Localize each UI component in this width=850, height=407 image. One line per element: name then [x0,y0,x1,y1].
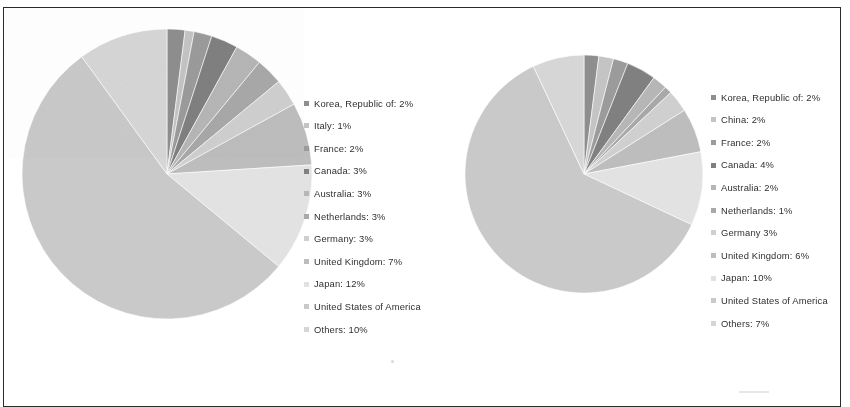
legend-item[interactable]: United States of America [711,289,828,312]
legend-swatch-icon [304,236,309,241]
legend-item-label: Others: 10% [314,325,368,334]
scan-speck [391,360,394,363]
legend-swatch-icon [711,117,716,122]
legend-swatch-icon [711,185,716,190]
legend-swatch-icon [711,163,716,168]
pie-right-svg [464,54,704,294]
legend-item[interactable]: Australia: 3% [304,182,421,205]
legend-swatch-icon [304,327,309,332]
legend-item-label: Australia: 2% [721,183,778,192]
legend-swatch-icon [711,276,716,281]
legend-item[interactable]: Germany 3% [711,222,828,245]
legend-swatch-icon [711,208,716,213]
legend-item[interactable]: Netherlands: 3% [304,205,421,228]
legend-item-label: Canada: 3% [314,166,367,175]
legend-item[interactable]: France: 2% [711,131,828,154]
legend-swatch-icon [711,140,716,145]
legend-item-label: Japan: 10% [721,273,772,282]
pie-left-svg [21,28,313,320]
pie-right-graphic [464,54,704,294]
legend-swatch-icon [304,169,309,174]
legend-swatch-icon [711,253,716,258]
pie-chart-right: Korea, Republic of: 2% China: 2% France:… [424,8,841,406]
legend-item[interactable]: Others: 10% [304,318,421,341]
legend-item-label: United Kingdom: 7% [314,257,402,266]
legend-item[interactable]: Australia: 2% [711,176,828,199]
legend-swatch-icon [304,282,309,287]
legend-item[interactable]: France: 2% [304,137,421,160]
legend-swatch-icon [304,304,309,309]
legend-item-label: China: 2% [721,115,766,124]
legend-item-label: Korea, Republic of: 2% [721,93,820,102]
legend-swatch-icon [711,95,716,100]
legend-item[interactable]: Korea, Republic of: 2% [304,92,421,115]
legend-swatch-icon [711,298,716,303]
legend-item-label: Netherlands: 3% [314,212,386,221]
legend-item[interactable]: China: 2% [711,109,828,132]
legend-item-label: Australia: 3% [314,189,371,198]
legend-item-label: France: 2% [721,138,770,147]
legend-item-label: Italy: 1% [314,121,351,130]
legend-item-label: United States of America [314,302,421,311]
legend-item-label: Korea, Republic of: 2% [314,99,413,108]
legend-item[interactable]: Japan: 12% [304,273,421,296]
legend-item[interactable]: Canada: 4% [711,154,828,177]
pie-chart-left: Korea, Republic of: 2% Italy: 1% France:… [4,8,424,406]
figure-frame: Korea, Republic of: 2% Italy: 1% France:… [3,7,841,407]
legend-item-label: Germany: 3% [314,234,373,243]
legend-item-label: France: 2% [314,144,363,153]
legend-swatch-icon [304,123,309,128]
legend-item-label: Germany 3% [721,228,777,237]
legend-item[interactable]: Canada: 3% [304,160,421,183]
legend-item[interactable]: Italy: 1% [304,115,421,138]
legend-swatch-icon [304,259,309,264]
legend-left: Korea, Republic of: 2% Italy: 1% France:… [304,92,421,341]
legend-item-label: Japan: 12% [314,279,365,288]
legend-swatch-icon [304,214,309,219]
legend-swatch-icon [304,191,309,196]
legend-item-label: Canada: 4% [721,160,774,169]
pie-left-graphic [21,28,313,320]
legend-item[interactable]: Germany: 3% [304,228,421,251]
legend-item[interactable]: Korea, Republic of: 2% [711,86,828,109]
legend-item[interactable]: Others: 7% [711,312,828,335]
legend-item[interactable]: Netherlands: 1% [711,199,828,222]
legend-item[interactable]: United Kingdom: 6% [711,244,828,267]
legend-item-label: United Kingdom: 6% [721,251,809,260]
legend-item-label: Others: 7% [721,319,769,328]
legend-item[interactable]: United Kingdom: 7% [304,250,421,273]
legend-right: Korea, Republic of: 2% China: 2% France:… [711,86,828,335]
legend-item[interactable]: Japan: 10% [711,267,828,290]
scan-speck [739,391,769,393]
legend-swatch-icon [304,101,309,106]
legend-swatch-icon [711,230,716,235]
legend-item-label: United States of America [721,296,828,305]
legend-swatch-icon [711,321,716,326]
legend-item-label: Netherlands: 1% [721,206,793,215]
legend-swatch-icon [304,146,309,151]
legend-item[interactable]: United States of America [304,295,421,318]
